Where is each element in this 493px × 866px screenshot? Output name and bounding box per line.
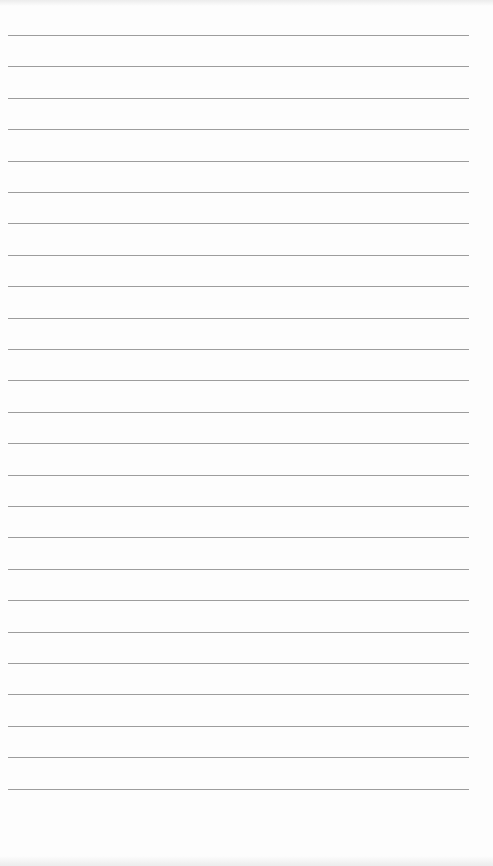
ruled-line (8, 663, 469, 664)
ruled-line (8, 757, 469, 758)
ruled-line (8, 694, 469, 695)
ruled-line (8, 600, 469, 601)
lined-paper-sheet (0, 0, 493, 866)
ruled-line (8, 506, 469, 507)
ruled-line (8, 66, 469, 67)
top-edge-shadow (0, 0, 493, 6)
ruled-line (8, 380, 469, 381)
ruled-line (8, 726, 469, 727)
ruled-line (8, 412, 469, 413)
ruled-line (8, 632, 469, 633)
ruled-line (8, 349, 469, 350)
ruled-line (8, 789, 469, 790)
ruled-line (8, 35, 469, 36)
ruled-line (8, 443, 469, 444)
ruled-line (8, 161, 469, 162)
ruled-line (8, 537, 469, 538)
ruled-line (8, 223, 469, 224)
ruled-line (8, 475, 469, 476)
ruled-line (8, 98, 469, 99)
ruled-line (8, 255, 469, 256)
ruled-line (8, 192, 469, 193)
ruled-line (8, 318, 469, 319)
bottom-edge-shadow (0, 856, 493, 866)
ruled-line (8, 286, 469, 287)
ruled-line (8, 129, 469, 130)
ruled-line (8, 569, 469, 570)
